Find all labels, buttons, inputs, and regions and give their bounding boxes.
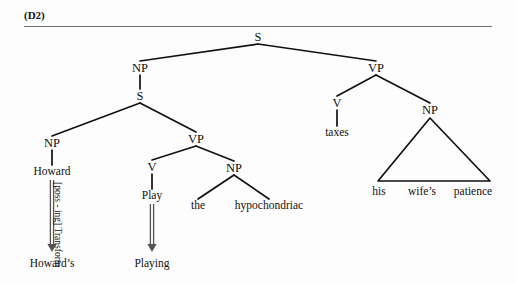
tree-node-s-0: S — [255, 31, 262, 44]
tree-node-np-1: NP — [132, 62, 148, 75]
tree-edge — [140, 44, 258, 61]
tree-edge — [198, 175, 234, 199]
tree-node-v-4: V — [332, 97, 341, 110]
transformation-result-poss-ing: Howard’s — [30, 258, 75, 270]
tree-node-np-9: NP — [226, 162, 242, 175]
tree-node-np-5: NP — [422, 104, 438, 117]
tree-node-s-3: S — [137, 90, 144, 103]
tree-edge — [52, 103, 140, 136]
tree-node-vp-2: VP — [368, 62, 384, 75]
tree-edge — [196, 146, 234, 161]
arrowhead — [147, 244, 156, 252]
tree-node-v-8: V — [147, 161, 156, 174]
tree-edge — [337, 75, 376, 96]
tree-terminal-play: Play — [142, 190, 162, 202]
tree-terminal-his: his — [372, 186, 385, 198]
tree-edge — [258, 44, 376, 61]
tree-terminal-taxes: taxes — [325, 127, 349, 139]
tree-terminal-howard: Howard — [33, 166, 70, 178]
tree-terminal-the: the — [191, 200, 205, 212]
tree-edge — [234, 175, 269, 199]
tree-node-vp-7: VP — [188, 133, 204, 146]
np-triangle — [378, 118, 490, 181]
transformation-result-play-ing: Playing — [134, 258, 169, 270]
tree-terminal-hypochondriac: hypochondriac — [235, 200, 303, 212]
tree-edge — [376, 75, 430, 103]
transformation-label-poss-ing: [poss - ing] Transform — [53, 182, 63, 267]
tree-node-np-6: NP — [44, 137, 60, 150]
tree-terminal-wifes: wife’s — [408, 186, 436, 198]
tree-edge — [140, 103, 196, 132]
tree-edge — [152, 146, 196, 160]
figure-canvas: (D2) SNPVPSVNPNPVPVNP HowardtaxesPlaythe… — [0, 0, 516, 283]
transformation-arrow-play-ing — [147, 204, 156, 252]
transformation-arrow-layer — [47, 180, 156, 252]
tree-terminal-patience: patience — [454, 186, 492, 198]
np-triangle-outline — [378, 118, 490, 181]
